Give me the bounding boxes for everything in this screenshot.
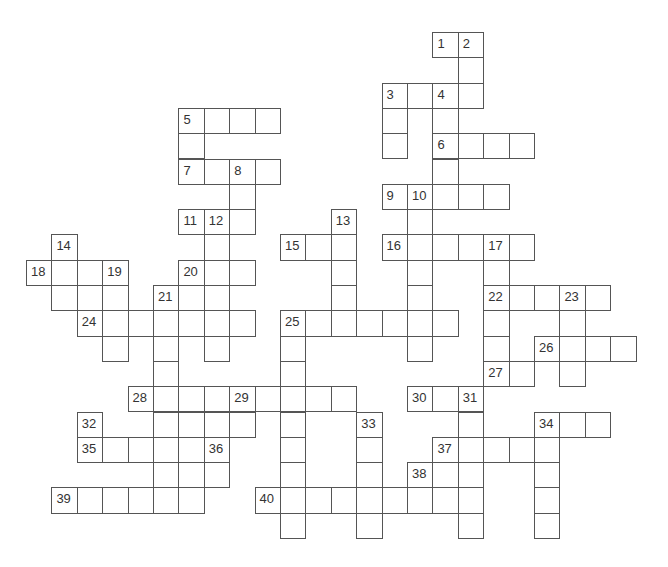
- crossword-cell[interactable]: [382, 108, 408, 134]
- crossword-cell[interactable]: [559, 412, 585, 438]
- crossword-cell[interactable]: [331, 386, 357, 412]
- crossword-cell[interactable]: 38: [407, 462, 433, 488]
- crossword-cell[interactable]: [331, 487, 357, 513]
- crossword-cell[interactable]: [509, 437, 535, 463]
- crossword-cell[interactable]: [102, 310, 128, 336]
- crossword-cell[interactable]: 13: [331, 209, 357, 235]
- crossword-cell[interactable]: [382, 487, 408, 513]
- crossword-cell[interactable]: [331, 234, 357, 260]
- crossword-cell[interactable]: [407, 336, 433, 362]
- crossword-cell[interactable]: [153, 412, 179, 438]
- crossword-cell[interactable]: [509, 285, 535, 311]
- crossword-cell[interactable]: [153, 437, 179, 463]
- crossword-cell[interactable]: [178, 285, 204, 311]
- crossword-cell[interactable]: [458, 487, 484, 513]
- crossword-cell[interactable]: [178, 386, 204, 412]
- crossword-cell[interactable]: 29: [229, 386, 255, 412]
- crossword-cell[interactable]: [280, 487, 306, 513]
- crossword-cell[interactable]: [356, 487, 382, 513]
- crossword-cell[interactable]: [534, 487, 560, 513]
- crossword-cell[interactable]: [509, 361, 535, 387]
- crossword-cell[interactable]: [509, 234, 535, 260]
- crossword-cell[interactable]: 9: [382, 184, 408, 210]
- crossword-cell[interactable]: 22: [483, 285, 509, 311]
- crossword-cell[interactable]: [305, 234, 331, 260]
- crossword-cell[interactable]: [77, 285, 103, 311]
- crossword-cell[interactable]: [483, 133, 509, 159]
- crossword-cell[interactable]: 8: [229, 159, 255, 185]
- crossword-cell[interactable]: 18: [26, 260, 52, 286]
- crossword-cell[interactable]: [229, 209, 255, 235]
- crossword-cell[interactable]: [559, 310, 585, 336]
- crossword-cell[interactable]: 33: [356, 412, 382, 438]
- crossword-cell[interactable]: [483, 184, 509, 210]
- crossword-cell[interactable]: [77, 260, 103, 286]
- crossword-cell[interactable]: [331, 260, 357, 286]
- crossword-cell[interactable]: [51, 285, 77, 311]
- crossword-cell[interactable]: [255, 108, 281, 134]
- crossword-cell[interactable]: [229, 260, 255, 286]
- crossword-cell[interactable]: 4: [432, 83, 458, 109]
- crossword-cell[interactable]: [305, 310, 331, 336]
- crossword-cell[interactable]: [458, 513, 484, 539]
- crossword-cell[interactable]: [204, 159, 230, 185]
- crossword-cell[interactable]: [280, 361, 306, 387]
- crossword-cell[interactable]: [382, 133, 408, 159]
- crossword-cell[interactable]: 15: [280, 234, 306, 260]
- crossword-cell[interactable]: [229, 310, 255, 336]
- crossword-cell[interactable]: 5: [178, 108, 204, 134]
- crossword-cell[interactable]: [102, 285, 128, 311]
- crossword-cell[interactable]: [280, 386, 306, 412]
- crossword-cell[interactable]: [229, 108, 255, 134]
- crossword-cell[interactable]: [204, 108, 230, 134]
- crossword-cell[interactable]: [407, 285, 433, 311]
- crossword-cell[interactable]: [534, 462, 560, 488]
- crossword-cell[interactable]: [128, 487, 154, 513]
- crossword-cell[interactable]: [356, 513, 382, 539]
- crossword-cell[interactable]: [432, 462, 458, 488]
- crossword-cell[interactable]: [280, 437, 306, 463]
- crossword-cell[interactable]: [255, 386, 281, 412]
- crossword-cell[interactable]: [178, 133, 204, 159]
- crossword-cell[interactable]: [356, 310, 382, 336]
- crossword-cell[interactable]: [204, 260, 230, 286]
- crossword-cell[interactable]: 12: [204, 209, 230, 235]
- crossword-cell[interactable]: [356, 462, 382, 488]
- crossword-cell[interactable]: [229, 412, 255, 438]
- crossword-cell[interactable]: [458, 412, 484, 438]
- crossword-cell[interactable]: [483, 437, 509, 463]
- crossword-cell[interactable]: [534, 285, 560, 311]
- crossword-cell[interactable]: [280, 412, 306, 438]
- crossword-cell[interactable]: [458, 133, 484, 159]
- crossword-cell[interactable]: [204, 285, 230, 311]
- crossword-cell[interactable]: [407, 260, 433, 286]
- crossword-cell[interactable]: 20: [178, 260, 204, 286]
- crossword-cell[interactable]: [204, 310, 230, 336]
- crossword-cell[interactable]: [77, 487, 103, 513]
- crossword-cell[interactable]: [280, 336, 306, 362]
- crossword-cell[interactable]: [153, 386, 179, 412]
- crossword-cell[interactable]: [280, 513, 306, 539]
- crossword-cell[interactable]: 27: [483, 361, 509, 387]
- crossword-cell[interactable]: [610, 336, 636, 362]
- crossword-cell[interactable]: [102, 336, 128, 362]
- crossword-cell[interactable]: [178, 412, 204, 438]
- crossword-cell[interactable]: [458, 83, 484, 109]
- crossword-cell[interactable]: [407, 234, 433, 260]
- crossword-cell[interactable]: 39: [51, 487, 77, 513]
- crossword-cell[interactable]: [559, 336, 585, 362]
- crossword-cell[interactable]: 24: [77, 310, 103, 336]
- crossword-cell[interactable]: [280, 462, 306, 488]
- crossword-cell[interactable]: [432, 234, 458, 260]
- crossword-cell[interactable]: [178, 462, 204, 488]
- crossword-cell[interactable]: [534, 437, 560, 463]
- crossword-cell[interactable]: [483, 310, 509, 336]
- crossword-cell[interactable]: [178, 487, 204, 513]
- crossword-cell[interactable]: 19: [102, 260, 128, 286]
- crossword-cell[interactable]: 7: [178, 159, 204, 185]
- crossword-cell[interactable]: 36: [204, 437, 230, 463]
- crossword-cell[interactable]: [128, 310, 154, 336]
- crossword-cell[interactable]: [432, 159, 458, 185]
- crossword-cell[interactable]: [534, 513, 560, 539]
- crossword-cell[interactable]: 23: [559, 285, 585, 311]
